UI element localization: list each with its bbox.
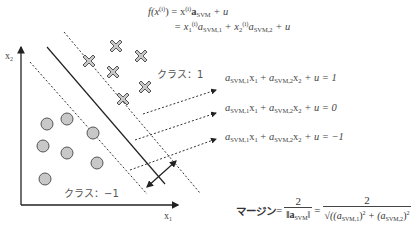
class-negative-label: クラス：−1 (64, 185, 119, 200)
eq-sub: SVM,2 (386, 216, 404, 222)
cross-marker-icon (117, 93, 129, 105)
eq-text: + u = 1 (302, 72, 337, 83)
eq-text: = x (174, 21, 188, 32)
eq-text: ) = x (165, 6, 185, 17)
fraction-denominator: √((aSVM,1)2 + (aSVM,2)2 (323, 206, 412, 226)
eq-sub: 2 (239, 26, 242, 33)
eq-text: + (258, 102, 269, 113)
axis-label-sub: 1 (169, 216, 172, 222)
norm-text: ‖ (307, 209, 310, 220)
eq-text: √((a (325, 210, 342, 221)
hyperplane-eq-zero: aSVM,1x1 + aSVM,2x2 + u = 0 (225, 102, 337, 117)
hyperplane-eq-minus1: aSVM,1x1 + aSVM,2x2 + u = −1 (225, 131, 344, 146)
fraction-denominator: ‖aSVM‖ (284, 207, 312, 225)
circle-marker-icon (61, 147, 73, 159)
pointer-arrow-lower (130, 139, 216, 170)
pointer-arrow-upper (143, 90, 216, 114)
margin-equation: マージン = 2 ‖aSVM‖ = 2 √((aSVM,1)2 + (aSVM,… (236, 194, 413, 226)
axis-label-sub: 2 (10, 56, 13, 62)
eq-sub: SVM,1 (230, 77, 249, 84)
eq-sub: 1 (188, 26, 191, 33)
eq-sub: SVM,2 (274, 136, 293, 143)
cross-marker-icon (135, 50, 147, 62)
eq-text: + (a (366, 210, 386, 221)
eq-text: + u = 0 (302, 102, 337, 113)
decision-function-line2: = x1(i)aSVM,1 + x2(i)aSVM,2 + u (174, 18, 290, 36)
class-negative-points (37, 113, 103, 185)
eq-sub: SVM (197, 11, 211, 18)
eq-text: f(x (148, 6, 159, 17)
eq-text: + (258, 131, 269, 142)
eq-text: + (258, 72, 269, 83)
fraction-numerator: 2 (294, 195, 304, 207)
fraction-numerator: 2 (362, 194, 372, 206)
margin-fraction-2: 2 √((aSVM,1)2 + (aSVM,2)2 (323, 194, 412, 226)
eq-sub: SVM,1 (342, 216, 360, 222)
x-axis-label: x1 (164, 210, 172, 222)
eq-text: + u (273, 21, 291, 32)
cross-marker-icon (107, 66, 119, 78)
eq-sup: 2 (406, 210, 409, 216)
margin-label: マージン (236, 203, 276, 218)
circle-marker-icon (37, 140, 49, 152)
equals-sign: = (276, 204, 282, 216)
eq-sub: SVM,1 (203, 26, 222, 33)
eq-text: + u (211, 6, 229, 17)
hyperplane-eq-plus1: aSVM,1x1 + aSVM,2x2 + u = 1 (225, 72, 337, 87)
margin-double-arrow (147, 161, 176, 187)
equals-sign: = (314, 204, 320, 216)
circle-marker-icon (41, 118, 53, 130)
circle-marker-icon (61, 113, 73, 125)
circle-marker-icon (39, 173, 51, 185)
eq-sub: SVM,1 (230, 107, 249, 114)
circle-marker-icon (91, 157, 103, 169)
eq-sub: SVM,2 (274, 77, 293, 84)
eq-sub: SVM,1 (230, 136, 249, 143)
class-positive-points (83, 40, 151, 105)
cross-marker-icon (83, 55, 95, 67)
y-axis-label: x2 (5, 50, 13, 62)
margin-fraction-1: 2 ‖aSVM‖ (284, 195, 312, 225)
eq-text: + u = −1 (302, 131, 344, 142)
eq-sub: SVM,2 (274, 107, 293, 114)
eq-text: + x (222, 21, 239, 32)
circle-marker-icon (87, 127, 99, 139)
cross-marker-icon (110, 40, 122, 52)
class-positive-label: クラス：1 (157, 66, 203, 81)
cross-marker-icon (139, 81, 151, 93)
eq-sub: SVM (294, 215, 307, 221)
eq-sub: SVM,2 (254, 26, 273, 33)
pointer-arrow-center (135, 113, 216, 140)
